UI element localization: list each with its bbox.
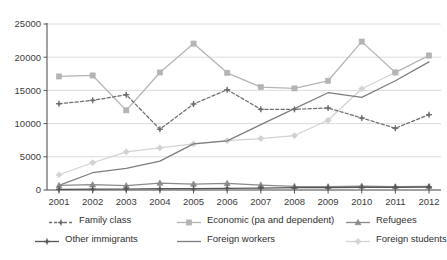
data-point-marker <box>58 102 61 105</box>
x-axis-tick-label: 2002 <box>82 196 103 206</box>
legend-item-label: Refugees <box>376 214 417 225</box>
x-axis-tick-label: 2012 <box>418 196 439 206</box>
data-point-marker <box>125 93 128 96</box>
y-axis-tick-label: 25000 <box>15 18 41 29</box>
data-point-marker <box>125 188 128 191</box>
data-point-marker <box>293 108 296 111</box>
data-point-marker <box>56 74 61 79</box>
data-point-marker <box>292 86 297 91</box>
data-point-marker <box>226 88 229 91</box>
data-point-marker <box>157 145 163 151</box>
legend-item-label: Foreign workers <box>207 233 275 244</box>
data-point-marker <box>56 172 62 178</box>
legend-item-foreign-students[interactable]: Foreign students <box>345 229 447 247</box>
data-point-marker <box>293 186 296 189</box>
data-point-marker <box>91 99 94 102</box>
chart-screenshot: 0500010000150002000025000200120022003200… <box>0 0 447 260</box>
x-axis-tick-label: 2008 <box>284 196 305 206</box>
x-axis-tick-label: 2003 <box>116 196 137 206</box>
data-point-marker <box>428 113 431 116</box>
data-point-marker <box>259 187 262 190</box>
y-axis-tick-label: 5000 <box>20 151 41 162</box>
data-point-marker <box>158 128 161 131</box>
data-point-marker <box>325 78 330 83</box>
legend-item-family-class[interactable]: Family class <box>48 210 131 228</box>
x-axis-tick-label: 2004 <box>149 196 170 206</box>
data-point-marker <box>327 186 330 189</box>
axes <box>47 23 441 190</box>
data-point-marker <box>359 39 364 44</box>
data-point-marker <box>186 219 191 224</box>
data-point-marker <box>226 187 229 190</box>
data-point-marker <box>394 186 397 189</box>
y-axis-tick-label: 15000 <box>15 85 41 96</box>
legend-marker-other-immigrants <box>34 233 60 244</box>
data-point-marker <box>259 108 262 111</box>
data-point-marker <box>291 132 297 138</box>
series-line <box>56 52 432 178</box>
data-point-marker <box>428 186 431 189</box>
y-axis-tick-label: 10000 <box>15 118 41 129</box>
data-point-marker <box>158 187 161 190</box>
x-axis-tick-label: 2007 <box>250 196 271 206</box>
series-path <box>59 187 429 189</box>
data-point-marker <box>60 221 63 224</box>
legend-item-other-immigrants[interactable]: Other immigrants <box>34 229 138 247</box>
plot-canvas: 0500010000150002000025000200120022003200… <box>0 0 447 205</box>
legend-marker-foreign-students <box>345 233 371 244</box>
x-axis-tick-label: 2009 <box>318 196 339 206</box>
data-point-marker <box>46 240 49 243</box>
data-point-marker <box>157 70 162 75</box>
legend-item-label: Foreign students <box>376 233 447 244</box>
legend-item-refugees[interactable]: Refugees <box>345 210 417 228</box>
x-axis-tick-label: 2001 <box>48 196 69 206</box>
series-path <box>59 42 429 111</box>
x-axis-tick-label: 2010 <box>351 196 372 206</box>
legend-marker-economic-pa-and-dependent <box>176 214 202 225</box>
data-point-marker <box>355 238 361 244</box>
series-line <box>56 87 432 133</box>
data-point-marker <box>225 70 230 75</box>
data-point-marker <box>58 188 61 191</box>
legend-marker-refugees <box>345 214 371 225</box>
data-point-marker <box>123 149 129 155</box>
y-axis-tick-label: 20000 <box>15 52 41 63</box>
legend-row-top: Family classEconomic (pa and dependent)R… <box>0 210 447 228</box>
x-axis-tick-label: 2005 <box>183 196 204 206</box>
data-point-marker <box>327 106 330 109</box>
data-point-marker <box>91 188 94 191</box>
legend-marker-family-class <box>48 214 74 225</box>
data-point-marker <box>90 160 96 166</box>
x-axis-tick-labels: 2001200220032004200520062007200820092010… <box>48 190 439 205</box>
data-point-marker <box>191 41 196 46</box>
data-point-marker <box>258 135 264 141</box>
legend-item-economic-pa-and-dependent[interactable]: Economic (pa and dependent) <box>176 210 334 228</box>
x-axis-tick-label: 2006 <box>217 196 238 206</box>
chart-legend: Family classEconomic (pa and dependent)R… <box>0 208 447 258</box>
data-point-marker <box>426 53 431 58</box>
legend-marker-foreign-workers <box>176 233 202 244</box>
data-point-marker <box>360 116 363 119</box>
line-chart: 0500010000150002000025000200120022003200… <box>0 0 447 205</box>
data-point-marker <box>394 127 397 130</box>
data-point-marker <box>192 187 195 190</box>
legend-item-label: Family class <box>79 214 131 225</box>
data-point-marker <box>393 70 398 75</box>
data-point-marker <box>90 73 95 78</box>
data-point-marker <box>192 103 195 106</box>
legend-item-label: Other immigrants <box>65 233 138 244</box>
y-axis-tick-labels: 0500010000150002000025000 <box>15 18 47 195</box>
x-axis-tick-label: 2011 <box>385 196 405 206</box>
data-point-marker <box>124 108 129 113</box>
legend-item-foreign-workers[interactable]: Foreign workers <box>176 229 275 247</box>
data-point-marker <box>258 84 263 89</box>
gridlines <box>47 24 441 190</box>
series-path <box>59 183 429 187</box>
legend-row-bottom: Other immigrantsForeign workersForeign s… <box>0 229 447 247</box>
legend-item-label: Economic (pa and dependent) <box>207 214 334 225</box>
data-point-marker <box>360 186 363 189</box>
series-line <box>56 39 431 113</box>
y-axis-tick-label: 0 <box>36 184 41 195</box>
